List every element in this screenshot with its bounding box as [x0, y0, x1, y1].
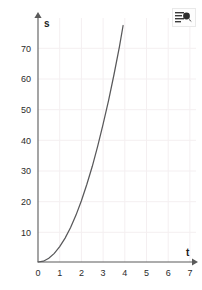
x-tick-label-5: 5 — [144, 268, 149, 278]
x-tick-label-4: 4 — [122, 268, 127, 278]
y-tick-labels: 70 60 50 40 30 20 10 — [21, 44, 31, 238]
x-tick-label-0: 0 — [35, 268, 40, 278]
curve-path-s-of-t — [38, 26, 123, 263]
chart-tool-glyph-icon — [175, 11, 193, 24]
x-axis-arrow-icon — [192, 258, 198, 265]
chart-tool-icon[interactable] — [172, 8, 196, 27]
y-tick-label-40: 40 — [21, 136, 31, 146]
x-tick-label-2: 2 — [79, 268, 84, 278]
x-tick-label-6: 6 — [166, 268, 171, 278]
chart-container: 70 60 50 40 30 20 10 0 1 2 3 4 5 6 7 s t — [0, 0, 202, 290]
y-tick-label-50: 50 — [21, 105, 31, 115]
y-tick-label-10: 10 — [21, 228, 31, 238]
x-tick-label-7: 7 — [187, 268, 192, 278]
y-tick-label-60: 60 — [21, 74, 31, 84]
x-tick-label-1: 1 — [57, 268, 62, 278]
y-axis-arrow-icon — [34, 12, 41, 18]
chart-svg: 70 60 50 40 30 20 10 0 1 2 3 4 5 6 7 s t — [0, 0, 202, 290]
gridlines-horizontal — [38, 48, 196, 232]
x-tick-label-3: 3 — [101, 268, 106, 278]
y-axis-label: s — [44, 18, 50, 29]
y-tick-label-70: 70 — [21, 44, 31, 54]
x-tick-labels: 0 1 2 3 4 5 6 7 — [35, 268, 192, 278]
y-tick-label-20: 20 — [21, 197, 31, 207]
y-tick-label-30: 30 — [21, 166, 31, 176]
